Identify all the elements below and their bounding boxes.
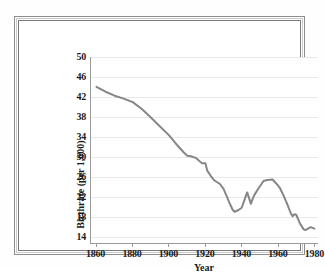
y-axis-tick-label: 42 (60, 92, 86, 102)
birthrate-line-chart (91, 57, 318, 243)
y-axis-tick-label: 26 (60, 172, 86, 182)
y-axis-tick-label: 38 (60, 112, 86, 122)
y-axis-tick-label: 18 (60, 212, 86, 222)
figure-canvas: Birthrate (per 1,000) 141822263034384246… (20, 22, 299, 249)
x-axis-tick-mark (96, 244, 97, 247)
x-axis-tick-mark (241, 244, 242, 247)
y-axis-tick-label: 50 (60, 52, 86, 62)
plot-area (90, 57, 318, 244)
x-axis-tick-mark (168, 244, 169, 247)
figure-frame-middle: Birthrate (per 1,000) 141822263034384246… (16, 18, 303, 253)
y-axis-tick-label: 14 (60, 232, 86, 242)
figure-frame-inner: Birthrate (per 1,000) 141822263034384246… (18, 20, 301, 251)
x-axis-tick-label: 1940 (232, 248, 251, 259)
x-axis-tick-label: 1900 (159, 248, 178, 259)
x-axis-tick-label: 1920 (195, 248, 214, 259)
y-axis-tick-label: 34 (60, 132, 86, 142)
x-axis-tick-label: 1880 (122, 248, 141, 259)
y-axis-tick-label: 22 (60, 192, 86, 202)
x-axis-tick-label: 1860 (86, 248, 105, 259)
y-axis-tick-label: 46 (60, 72, 86, 82)
x-axis-tick-label: 1960 (268, 248, 287, 259)
x-axis-tick-label: 1980 (305, 248, 324, 259)
x-axis-tick-mark (278, 244, 279, 247)
series-line-birthrate (96, 87, 314, 230)
y-axis-tick-label: 30 (60, 152, 86, 162)
x-axis-tick-mark (314, 244, 315, 247)
x-axis-tick-mark (205, 244, 206, 247)
x-axis-label: Year (90, 262, 318, 273)
figure-frame-outer: Birthrate (per 1,000) 141822263034384246… (14, 16, 305, 255)
y-axis-tick-labels: 14182226303438424650 (58, 57, 86, 244)
x-axis-tick-mark (132, 244, 133, 247)
x-axis-tick-labels: 1860188019001920194019601980 (90, 248, 318, 262)
